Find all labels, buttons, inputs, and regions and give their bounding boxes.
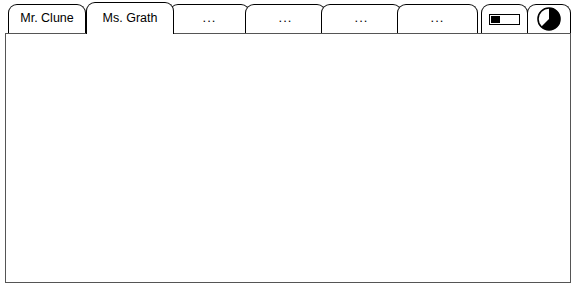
tab-label: Mr. Clune [20,12,74,26]
tab-tab-4[interactable]: ... [245,4,326,33]
tab-bar: Mr. CluneMs. Grath............ [0,0,576,34]
tab-label: ... [355,11,369,28]
tab-pie-view[interactable] [527,4,571,33]
tab-tab-6[interactable]: ... [397,4,478,33]
tab-ms-grath[interactable]: Ms. Grath [86,2,174,34]
content-panel [5,33,571,283]
app-window: Mr. CluneMs. Grath............ 010203040… [0,0,576,291]
bar-chart-icon [489,14,520,25]
tab-bar-view[interactable] [481,4,528,33]
tab-label: ... [203,11,217,28]
tab-label: ... [431,11,445,28]
tab-label: ... [279,11,293,28]
tab-label: Ms. Grath [103,12,158,26]
pie-chart-icon [537,7,561,31]
tab-mr-clune[interactable]: Mr. Clune [8,4,86,33]
tab-tab-5[interactable]: ... [321,4,402,33]
tab-tab-3[interactable]: ... [169,4,250,33]
